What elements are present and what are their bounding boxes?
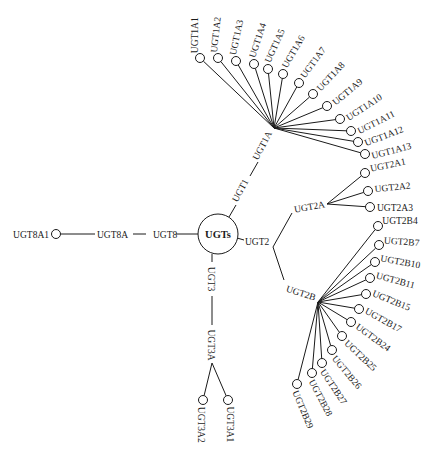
- edge-ugt2a3: [327, 204, 366, 207]
- leaf-node-ugt2a1: [361, 169, 370, 178]
- leaf-node-ugt1a8: [309, 90, 318, 99]
- edge-root-ugt2: [237, 238, 244, 240]
- leaf-label-ugt2b10: UGT2B10: [380, 253, 421, 270]
- label-ugt2a: UGT2A: [293, 199, 326, 214]
- edge-ugt1a8: [274, 97, 310, 128]
- label-ugt2: UGT2: [245, 237, 270, 247]
- leaf-node-ugt8a1: [52, 230, 61, 239]
- edge-ugt3a1: [212, 363, 226, 396]
- edge-ugt2b27: [318, 302, 322, 359]
- label-ugt3a: UGT3A: [206, 329, 216, 360]
- edge-ugt3a2: [204, 363, 212, 396]
- leaf-label-ugt2a2: UGT2A2: [374, 180, 411, 194]
- edge-ugt2-ugt2a: [273, 213, 292, 247]
- edge-root-ugt1: [229, 205, 236, 217]
- leaf-node-ugt1a1: [196, 54, 205, 63]
- leaf-node-ugt1a13: [361, 150, 370, 159]
- leaf-node-ugt2b29: [293, 380, 302, 389]
- leaf-node-ugt1a10: [336, 115, 345, 124]
- leaf-label-ugt1a2: UGT1A2: [209, 16, 223, 53]
- leaf-node-ugt2b25: [338, 332, 347, 341]
- leaf-node-ugt2b17: [355, 305, 364, 314]
- leaf-node-ugt1a7: [295, 79, 304, 88]
- leaf-node-ugt2b4: [374, 222, 383, 231]
- leaf-label-ugt1a1: UGT1A1: [190, 17, 200, 53]
- leaf-label-ugt2b15: UGT2B15: [371, 288, 412, 312]
- leaf-node-ugt2a2: [364, 187, 373, 196]
- root-label: UGTs: [205, 229, 231, 240]
- leaf-node-ugt2a3: [366, 203, 375, 212]
- leaf-node-ugt1a11: [347, 127, 356, 136]
- leaf-node-ugt2b15: [362, 290, 371, 299]
- leaf-node-ugt2b7: [375, 241, 384, 250]
- label-ugt1a: UGT1A: [251, 129, 275, 161]
- label-ugt8: UGT8: [153, 230, 178, 240]
- leaf-node-ugt1a12: [354, 138, 363, 147]
- leaf-node-ugt1a2: [214, 54, 223, 63]
- leaf-node-ugt2b27: [318, 359, 327, 368]
- tree-canvas: UGT1A1UGT1A2UGT1A3UGT1A4UGT1A5UGT1A6UGT1…: [0, 0, 433, 459]
- leaf-label-ugt1a8: UGT1A8: [315, 60, 347, 93]
- leaf-label-ugt2b29: UGT2B29: [290, 389, 315, 430]
- leaf-node-ugt2b28: [308, 369, 317, 378]
- ugt-tree-diagram: UGT1A1UGT1A2UGT1A3UGT1A4UGT1A5UGT1A6UGT1…: [0, 0, 433, 459]
- edge-ugt2b25: [318, 302, 339, 332]
- leaf-label-ugt1a7: UGT1A7: [299, 45, 328, 80]
- edge-ugt1-ugt1a: [250, 162, 258, 176]
- edge-ugt2a1: [327, 176, 362, 204]
- leaf-label-ugt2a3: UGT2A3: [377, 203, 413, 213]
- leaf-label-ugt8a1: UGT8A1: [13, 230, 49, 240]
- leaf-node-ugt3a1: [224, 396, 233, 405]
- label-ugt2b: UGT2B: [285, 284, 317, 303]
- label-ugt3: UGT3: [206, 267, 216, 292]
- edge-ugt2b11: [318, 280, 366, 302]
- leaf-node-ugt3a2: [199, 396, 208, 405]
- leaf-node-ugt2b11: [366, 274, 375, 283]
- leaf-label-ugt2b7: UGT2B7: [384, 236, 420, 248]
- leaf-node-ugt1a9: [323, 102, 332, 111]
- leaf-node-ugt1a4: [250, 60, 259, 69]
- leaf-label-ugt2b11: UGT2B11: [375, 271, 416, 291]
- leaf-label-ugt2b4: UGT2B4: [382, 216, 418, 226]
- leaf-label-ugt1a9: UGT1A9: [330, 76, 364, 107]
- leaf-node-ugt1a3: [232, 57, 241, 66]
- leaf-node-ugt2b24: [347, 318, 356, 327]
- edge-ugt2a2: [327, 192, 364, 204]
- label-ugt1: UGT1: [230, 177, 250, 203]
- leaf-node-ugt2b10: [371, 258, 380, 267]
- edge-ugt2-ugt2b: [273, 247, 284, 280]
- leaf-node-ugt1a5: [264, 65, 273, 74]
- leaf-label-ugt1a3: UGT1A3: [228, 19, 245, 56]
- label-ugt8a: UGT8A: [97, 230, 128, 240]
- leaf-node-ugt1a6: [279, 70, 288, 79]
- leaf-label-ugt3a1: UGT3A1: [226, 406, 236, 442]
- leaf-label-ugt3a2: UGT3A2: [196, 407, 206, 443]
- leaf-node-ugt2b26: [328, 346, 337, 355]
- root-node: UGTs: [198, 214, 238, 254]
- leaf-label-ugt1a6: UGT1A6: [280, 33, 307, 69]
